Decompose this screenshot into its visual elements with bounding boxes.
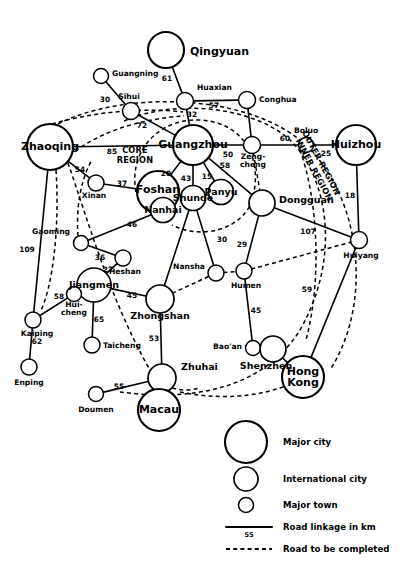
city-label-macau: Macau <box>139 403 179 416</box>
city-node-zengcheng[interactable] <box>244 137 261 154</box>
distance-label-dongguan-huiyang: 107 <box>300 227 315 236</box>
distance-label-qingyuan-huaxian: 61 <box>162 74 172 83</box>
city-node-xinan[interactable] <box>88 175 104 191</box>
city-label-qingyuan: Qingyuan <box>190 45 249 58</box>
distance-label-zhaoqing-kaiping: 109 <box>19 245 34 254</box>
city-node-humen[interactable] <box>236 263 252 279</box>
distance-label-zhaoqing-guangzhou: 85 <box>107 147 117 156</box>
city-label-zhaoqing: Zhaoqing <box>21 140 79 153</box>
distance-label-zengcheng-boluo: 60 <box>280 134 290 143</box>
city-label-huizhou: Huizhou <box>331 138 381 151</box>
city-node-baoan[interactable] <box>246 341 261 356</box>
city-node-heshan[interactable] <box>115 250 131 266</box>
city-node-zhuhai[interactable] <box>148 364 176 392</box>
legend-label-legend-intl-city: International city <box>283 474 367 484</box>
distance-label-jiangmen-taicheng: 65 <box>94 315 104 324</box>
distance-label-xinan-foshan: 37 <box>117 179 127 188</box>
road-link-shunde-nansha <box>196 209 213 266</box>
distance-label-guangzhou-shunde: 43 <box>181 174 191 183</box>
region-label-core-region: COREREGION <box>117 145 154 165</box>
city-node-gaoming[interactable] <box>74 236 89 251</box>
legend-road-distance-example: 55 <box>244 531 254 539</box>
city-node-guangning[interactable] <box>94 69 109 84</box>
city-node-huaxian[interactable] <box>177 93 194 110</box>
city-node-kaiping[interactable] <box>25 312 41 328</box>
city-node-nansha[interactable] <box>208 265 224 281</box>
city-node-taicheng[interactable] <box>84 337 100 353</box>
city-node-qingyuan[interactable] <box>148 32 184 68</box>
distance-label-huaxian-conghua: 57 <box>209 101 219 110</box>
network-map-canvas: 6130573272855060251854372043155830463627… <box>0 0 405 577</box>
road-link-dongguan-humen <box>246 215 259 264</box>
distance-label-zhongshan-zhuhai: 53 <box>149 334 159 343</box>
distance-label-guangzhou-foshan: 20 <box>161 169 171 178</box>
road-link-guangzhou-foshan <box>170 161 181 176</box>
distance-label-guangzhou-panyu: 15 <box>202 172 212 181</box>
city-label-guangning: Guangning <box>112 69 158 78</box>
distance-label-huiyang-hongkong: 59 <box>302 285 312 294</box>
city-node-doumen[interactable] <box>89 387 104 402</box>
city-label-heshan: Heshan <box>109 267 141 276</box>
network-diagram: 6130573272855060251854372043155830463627… <box>0 0 405 577</box>
city-label-nanhai: Nanhai <box>144 204 182 215</box>
distance-label-nanhai-gaoming: 46 <box>127 220 137 229</box>
distance-label-dongguan-humen: 29 <box>237 240 247 249</box>
city-label-jiangmen: Jiangmen <box>68 279 119 290</box>
city-label-zhongshan: Zhongshan <box>130 310 190 321</box>
distance-label-guangning-sihui: 30 <box>100 95 110 104</box>
distance-label-shunde-nansha: 30 <box>217 235 227 244</box>
city-label-conghua: Conghua <box>259 95 297 104</box>
city-label-huicheng: Hui-cheng <box>61 300 87 317</box>
legend-label-legend-major-town: Major town <box>283 500 338 510</box>
road-link-conghua-zengcheng <box>248 108 251 137</box>
distance-label-doumen-zhuhai: 55 <box>114 382 124 391</box>
road-link-qingyuan-huaxian <box>172 66 182 93</box>
city-node-shenzhen[interactable] <box>260 336 286 362</box>
road-link-nansha-humen <box>223 272 236 273</box>
distance-label-jiangmen-zhongshan: 45 <box>127 291 137 300</box>
city-node-dongguan[interactable] <box>249 190 275 216</box>
legend-swatch-legend-intl-city <box>234 467 258 491</box>
city-label-nansha: Nansha <box>173 262 205 271</box>
road-link-doumen-zhuhai <box>103 381 149 392</box>
distance-label-guangzhou-zengcheng: 50 <box>223 150 233 159</box>
city-node-enping[interactable] <box>21 359 37 375</box>
arc-zhaoqing-south <box>40 170 57 312</box>
city-node-huiyang[interactable] <box>351 232 368 249</box>
city-label-huiyang: Huiyang <box>343 251 378 260</box>
city-label-zhuhai: Zhuhai <box>181 361 218 372</box>
distance-label-huizhou-huiyang: 18 <box>345 191 355 200</box>
city-label-xinan: Xinan <box>82 191 106 200</box>
distance-label-humen-baoan: 45 <box>251 306 261 315</box>
road-link-nanhai-gaoming <box>87 214 152 240</box>
legend-label-legend-major-city: Major city <box>283 437 332 447</box>
road-link-zhongshan-nansha <box>172 276 209 293</box>
city-label-guangzhou: Guangzhou <box>158 138 228 151</box>
legend-swatch-legend-major-town <box>239 498 254 513</box>
city-label-hongkong: HongKong <box>287 365 319 389</box>
legend-label-legend-road-linkage: Road linkage in km <box>283 522 376 532</box>
city-label-taicheng: Taicheng <box>103 341 141 350</box>
road-link-humen-huiyang <box>251 242 351 269</box>
distance-label-kaiping-enping: 62 <box>32 337 42 346</box>
city-label-shenzhen: Shenzhen <box>240 360 293 371</box>
legend-swatch-legend-major-city <box>225 421 267 463</box>
city-label-zengcheng: Zeng-cheng <box>240 152 266 169</box>
city-label-panyu: Panyu <box>205 186 238 197</box>
distance-label-huaxian-guangzhou: 32 <box>187 110 197 119</box>
city-label-enping: Enping <box>14 378 43 387</box>
distance-label-huicheng-kaiping: 58 <box>54 292 64 301</box>
distance-label-zhaoqing-xinan: 54 <box>75 165 85 174</box>
road-link-huiyang-hongkong <box>311 247 356 358</box>
road-link-zhaoqing-kaiping <box>34 169 48 312</box>
city-label-huaxian: Huaxian <box>197 83 232 92</box>
distance-label-sihui-guangzhou: 72 <box>137 121 147 130</box>
city-label-baoan: Bao'an <box>213 342 242 351</box>
distance-label-gaoming-heshan: 36 <box>95 253 105 262</box>
road-link-huizhou-huiyang <box>357 164 359 232</box>
city-label-gaoming: Gaoming <box>32 227 70 236</box>
city-node-sihui[interactable] <box>123 103 140 120</box>
legend-label-legend-road-planned: Road to be completed <box>283 544 389 554</box>
city-node-conghua[interactable] <box>239 92 256 109</box>
legend: Major cityInternational cityMajor town55… <box>225 421 389 554</box>
